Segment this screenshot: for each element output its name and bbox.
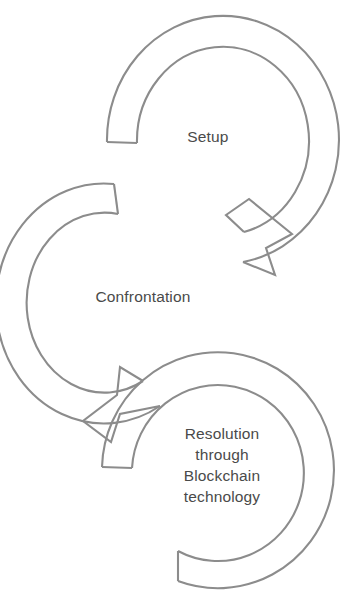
resolution-arrow-tail-cap bbox=[102, 467, 132, 468]
confrontation-arrow-tail-cap bbox=[114, 184, 118, 214]
stage-label-resolution: Resolution through Blockchain technology bbox=[162, 423, 282, 507]
stage-label-confrontation: Confrontation bbox=[48, 288, 238, 305]
setup-arrow-tail-cap bbox=[107, 142, 137, 143]
stage-label-setup: Setup bbox=[148, 128, 268, 145]
diagram-canvas bbox=[0, 0, 357, 616]
process-diagram: Setup Confrontation Resolution through B… bbox=[0, 0, 357, 616]
